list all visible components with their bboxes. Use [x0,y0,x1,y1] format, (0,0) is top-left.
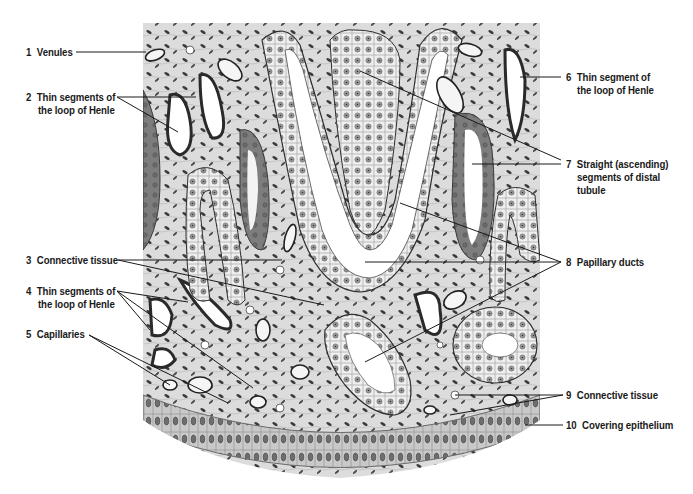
label-3-connective-tissue: 3Connective tissue [26,254,118,267]
tissue-section [140,20,545,485]
label-9-connective-tissue: 9Connective tissue [566,389,658,402]
label-2-thin-segments: 2Thin segments of the loop of Henle [26,91,115,117]
label-6-thin-segment: 6Thin segment of the loop of Henle [566,71,654,97]
label-10-covering-epithelium: 10Covering epithelium [566,419,673,432]
label-7-distal-tubule: 7Straight (ascending) segments of distal… [566,158,668,197]
label-8-papillary-ducts: 8Papillary ducts [566,256,644,269]
label-5-capillaries: 5Capillaries [26,328,85,341]
label-1-venules: 1Venules [26,46,73,59]
label-4-thin-segments: 4Thin segments of the loop of Henle [26,285,115,311]
